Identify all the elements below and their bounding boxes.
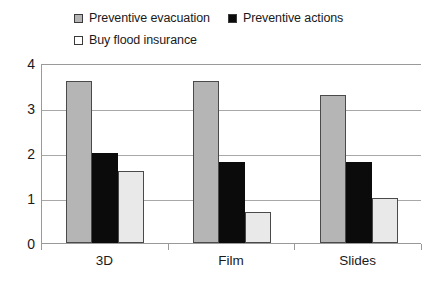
x-axis: 3DFilmSlides: [41, 244, 421, 278]
bar-groups: [42, 65, 421, 243]
y-axis-tick-label: 0: [9, 237, 35, 251]
legend-item-preventive-evacuation: Preventive evacuation: [74, 11, 210, 25]
bar-group: [193, 65, 271, 243]
bar-group: [66, 65, 144, 243]
x-axis-tick: [168, 244, 169, 250]
legend-row: Buy flood insurance: [74, 30, 404, 50]
bar: [219, 162, 245, 243]
legend-label: Preventive evacuation: [89, 11, 210, 25]
legend-swatch-icon: [74, 14, 83, 23]
bar: [66, 81, 92, 243]
bar: [372, 198, 398, 243]
y-axis-tick-label: 2: [9, 147, 35, 161]
bar: [245, 212, 271, 244]
y-axis-tick-label: 4: [9, 57, 35, 71]
bar-group: [320, 65, 398, 243]
y-axis: 01234: [5, 64, 35, 244]
x-axis-category-label: Film: [218, 253, 244, 269]
legend-label: Buy flood insurance: [89, 33, 197, 47]
y-axis-tick-label: 3: [9, 102, 35, 116]
bar: [92, 153, 118, 243]
legend-label: Preventive actions: [243, 11, 343, 25]
x-axis-category-label: Slides: [339, 253, 376, 269]
legend-swatch-icon: [74, 36, 83, 45]
bar: [118, 171, 144, 243]
x-axis-tick: [41, 244, 42, 250]
bar: [193, 81, 219, 243]
x-axis-category-label: 3D: [96, 253, 113, 269]
chart-plot-area: [41, 64, 421, 244]
x-axis-tick: [294, 244, 295, 250]
x-axis-tick: [421, 244, 422, 250]
chart-legend: Preventive evacuation Preventive actions…: [74, 8, 404, 52]
bar: [320, 95, 346, 244]
y-axis-tick-label: 1: [9, 192, 35, 206]
legend-item-buy-flood-insurance: Buy flood insurance: [74, 33, 197, 47]
legend-item-preventive-actions: Preventive actions: [228, 11, 343, 25]
legend-row: Preventive evacuation Preventive actions: [74, 8, 404, 28]
bar: [346, 162, 372, 243]
legend-swatch-icon: [228, 14, 237, 23]
